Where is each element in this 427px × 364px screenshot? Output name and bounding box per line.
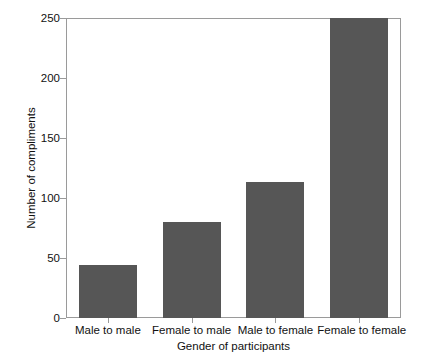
bar (246, 182, 304, 318)
x-axis-tick-label: Female to male (150, 323, 234, 337)
y-axis-tick-label: 250 (2, 13, 60, 25)
x-axis-tick-label: Female to female (317, 323, 401, 337)
x-axis-tick-label: Male to male (66, 323, 150, 337)
bar (163, 222, 221, 318)
y-axis-tick-mark (60, 318, 66, 319)
bar-series (66, 18, 401, 318)
bar-chart-figure: Number of compliments 050100150200250 Ma… (0, 0, 427, 364)
y-axis-tick-labels: 050100150200250 (0, 0, 60, 364)
bar (79, 265, 137, 318)
y-axis-tick-label: 150 (2, 133, 60, 145)
x-axis-tick-labels: Male to maleFemale to maleMale to female… (66, 323, 401, 339)
y-axis-tick-label: 200 (2, 73, 60, 85)
y-axis-tick-label: 0 (2, 313, 60, 325)
bar (330, 18, 388, 318)
y-axis-tick-label: 100 (2, 193, 60, 205)
y-axis-tick-label: 50 (2, 253, 60, 265)
x-axis-title: Gender of participants (66, 339, 401, 353)
x-axis-tick-label: Male to female (234, 323, 318, 337)
